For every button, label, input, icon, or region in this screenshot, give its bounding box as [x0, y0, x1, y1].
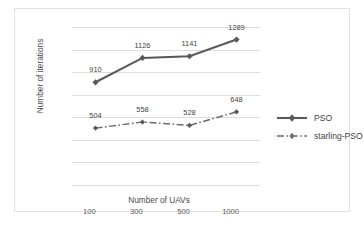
data-label: 1141: [170, 39, 210, 48]
data-label: 1289: [217, 23, 257, 32]
data-label: 648: [217, 95, 257, 104]
legend-key-pso-icon: [277, 112, 307, 124]
legend-item-starling-pso[interactable]: starling-PSO: [277, 127, 363, 145]
legend-key-starling-pso-icon: [277, 130, 307, 142]
x-tick-label: 100: [66, 207, 112, 216]
series-lines: [72, 27, 260, 185]
plot-area: 910112611411289 504558528648 100 300 500…: [72, 27, 260, 185]
legend-item-pso[interactable]: PSO: [277, 109, 363, 127]
legend-label-starling-pso: starling-PSO: [314, 131, 363, 141]
data-label: 910: [76, 65, 116, 74]
y-axis-title: Number of iterations: [35, 11, 45, 141]
x-axis-title: Number of UAVs: [59, 195, 259, 205]
chart-container: Number of iterations Number of UAVs 1400…: [14, 8, 350, 212]
x-tick-label: 1000: [208, 207, 254, 216]
gridline: [72, 185, 260, 186]
chart-legend: PSO starling-PSO: [277, 109, 363, 145]
data-label: 528: [170, 108, 210, 117]
data-label: 504: [76, 111, 116, 120]
data-label: 558: [123, 105, 163, 114]
legend-label-pso: PSO: [314, 113, 332, 123]
x-tick-label: 300: [113, 207, 159, 216]
data-label: 1126: [123, 41, 163, 50]
x-tick-label: 500: [161, 207, 207, 216]
